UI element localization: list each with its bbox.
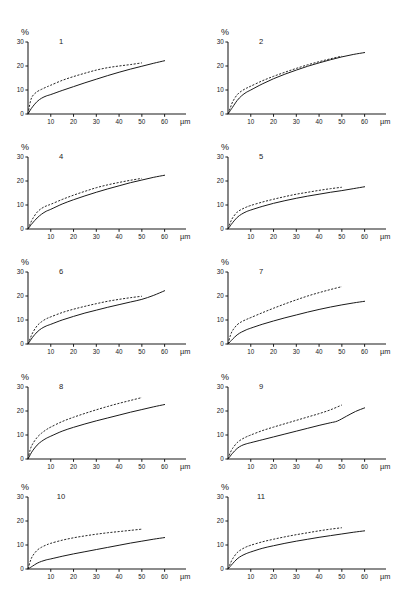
chart-panel-11: 0102030102030405060µm%11 bbox=[200, 477, 400, 601]
y-tick-label: 30 bbox=[217, 38, 225, 45]
x-tick-label: 10 bbox=[247, 463, 255, 470]
x-tick-label: 60 bbox=[161, 118, 169, 125]
x-tick-label: 60 bbox=[361, 573, 369, 580]
x-tick-label: 30 bbox=[93, 463, 101, 470]
y-tick-label: 20 bbox=[217, 292, 225, 299]
curve-dashed bbox=[228, 56, 342, 114]
x-axis-unit-label: µm bbox=[180, 347, 190, 356]
x-tick-label: 40 bbox=[316, 233, 324, 240]
curve-dashed bbox=[28, 529, 142, 569]
y-tick-label: 10 bbox=[217, 541, 225, 548]
chart-panel-10: 0102030102030405060µm%10 bbox=[0, 477, 200, 601]
x-tick-label: 20 bbox=[70, 348, 78, 355]
y-tick-label: 30 bbox=[17, 383, 25, 390]
multi-panel-chart-figure: 0102030102030405060µm%101020301020304050… bbox=[0, 0, 400, 604]
x-tick-label: 50 bbox=[338, 348, 346, 355]
x-tick-label: 10 bbox=[247, 233, 255, 240]
panel-number-label: 11 bbox=[257, 492, 265, 501]
panel-number-label: 8 bbox=[59, 382, 63, 391]
x-tick-label: 60 bbox=[161, 348, 169, 355]
x-tick-label: 60 bbox=[161, 463, 169, 470]
y-tick-label: 30 bbox=[17, 153, 25, 160]
curve-solid bbox=[28, 61, 165, 114]
x-tick-label: 40 bbox=[316, 463, 324, 470]
y-tick-label: 20 bbox=[217, 177, 225, 184]
x-tick-label: 30 bbox=[293, 233, 301, 240]
x-axis-unit-label: µm bbox=[180, 232, 190, 241]
curve-dashed bbox=[28, 178, 142, 229]
curve-solid bbox=[28, 175, 165, 229]
y-tick-label: 0 bbox=[220, 565, 224, 572]
y-tick-label: 30 bbox=[17, 493, 25, 500]
y-tick-label: 10 bbox=[17, 201, 25, 208]
x-axis-unit-label: µm bbox=[380, 117, 390, 126]
y-axis-unit-label: % bbox=[21, 372, 29, 382]
x-tick-label: 10 bbox=[47, 118, 55, 125]
panel-number-label: 6 bbox=[59, 267, 63, 276]
panel-number-label: 9 bbox=[259, 382, 263, 391]
x-tick-label: 40 bbox=[116, 463, 124, 470]
y-tick-label: 30 bbox=[17, 268, 25, 275]
y-tick-label: 10 bbox=[217, 201, 225, 208]
y-axis-unit-label: % bbox=[21, 142, 29, 152]
y-tick-label: 0 bbox=[220, 110, 224, 117]
panel-number-label: 2 bbox=[259, 37, 263, 46]
chart-panel-6: 0102030102030405060µm%6 bbox=[0, 252, 200, 367]
x-tick-label: 20 bbox=[270, 463, 278, 470]
y-tick-label: 20 bbox=[217, 62, 225, 69]
x-tick-label: 40 bbox=[116, 573, 124, 580]
x-tick-label: 40 bbox=[316, 348, 324, 355]
x-tick-label: 40 bbox=[116, 118, 124, 125]
x-tick-label: 20 bbox=[270, 118, 278, 125]
y-axis-unit-label: % bbox=[221, 257, 229, 267]
x-tick-label: 30 bbox=[293, 348, 301, 355]
x-tick-label: 20 bbox=[270, 348, 278, 355]
curve-solid bbox=[228, 53, 365, 114]
x-tick-label: 40 bbox=[316, 573, 324, 580]
x-tick-label: 10 bbox=[247, 348, 255, 355]
chart-panel-9: 0102030102030405060µm%9 bbox=[200, 367, 400, 477]
y-tick-label: 10 bbox=[17, 316, 25, 323]
y-tick-label: 30 bbox=[17, 38, 25, 45]
x-tick-label: 10 bbox=[247, 573, 255, 580]
x-tick-label: 50 bbox=[138, 233, 146, 240]
x-tick-label: 10 bbox=[247, 118, 255, 125]
x-tick-label: 40 bbox=[116, 233, 124, 240]
curve-solid bbox=[28, 538, 165, 569]
y-tick-label: 20 bbox=[217, 407, 225, 414]
x-tick-label: 60 bbox=[361, 233, 369, 240]
y-tick-label: 0 bbox=[220, 340, 224, 347]
y-tick-label: 10 bbox=[217, 86, 225, 93]
x-axis-unit-label: µm bbox=[380, 232, 390, 241]
y-tick-label: 20 bbox=[17, 62, 25, 69]
curve-solid bbox=[228, 531, 365, 569]
panel-number-label: 7 bbox=[259, 267, 263, 276]
y-tick-label: 0 bbox=[20, 225, 24, 232]
y-axis-unit-label: % bbox=[21, 27, 29, 37]
y-tick-label: 10 bbox=[217, 431, 225, 438]
y-tick-label: 20 bbox=[17, 177, 25, 184]
y-tick-label: 10 bbox=[17, 541, 25, 548]
x-tick-label: 60 bbox=[161, 233, 169, 240]
x-tick-label: 50 bbox=[138, 463, 146, 470]
curve-dashed bbox=[28, 398, 142, 459]
y-axis-unit-label: % bbox=[21, 257, 29, 267]
y-tick-label: 10 bbox=[217, 316, 225, 323]
panel-number-label: 4 bbox=[59, 152, 63, 161]
chart-panel-1: 0102030102030405060µm%1 bbox=[0, 22, 200, 137]
x-tick-label: 40 bbox=[116, 348, 124, 355]
x-tick-label: 50 bbox=[138, 348, 146, 355]
y-tick-label: 10 bbox=[17, 431, 25, 438]
x-axis-unit-label: µm bbox=[180, 572, 190, 581]
x-axis-unit-label: µm bbox=[380, 347, 390, 356]
x-tick-label: 50 bbox=[338, 463, 346, 470]
y-tick-label: 0 bbox=[220, 455, 224, 462]
x-tick-label: 10 bbox=[47, 573, 55, 580]
x-tick-label: 50 bbox=[338, 233, 346, 240]
curve-solid bbox=[228, 301, 365, 344]
panel-number-label: 1 bbox=[59, 37, 63, 46]
curve-dashed bbox=[228, 405, 342, 459]
x-tick-label: 10 bbox=[47, 233, 55, 240]
x-tick-label: 10 bbox=[47, 463, 55, 470]
y-axis-unit-label: % bbox=[221, 372, 229, 382]
